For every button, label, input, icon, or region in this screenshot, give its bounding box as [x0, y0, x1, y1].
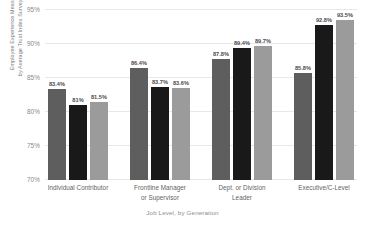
bar-item[interactable]: 83.7% — [151, 10, 169, 180]
y-axis-title-line1: Employee Experience Measured — [9, 0, 15, 70]
bar-group: 86.4%83.7%83.6% — [127, 10, 193, 180]
bar-value-label: 81% — [72, 97, 83, 103]
bar-value-label: 85.8% — [295, 65, 311, 71]
bar-value-label: 93.5% — [337, 12, 353, 18]
bar-item[interactable]: 83.6% — [172, 10, 190, 180]
x-axis-tick-labels: Individual ContributorFrontline Managero… — [45, 183, 357, 202]
bar[interactable] — [69, 105, 87, 180]
bar-value-label: 89.4% — [234, 40, 250, 46]
bar-group: 83.4%81%81.5% — [45, 10, 111, 180]
y-axis-tick-label: 90% — [27, 40, 40, 47]
bar[interactable] — [172, 88, 190, 180]
bar-item[interactable]: 81% — [69, 10, 87, 180]
x-axis-title: Job Level, by Generation — [0, 209, 365, 216]
x-axis-tick-label: Dept. or DivisionLeader — [209, 183, 275, 202]
y-axis-title: Employee Experience Measured by Average … — [9, 0, 24, 105]
y-axis-tick-label: 75% — [27, 142, 40, 149]
y-axis-tick-label: 85% — [27, 74, 40, 81]
bar-item[interactable]: 89.7% — [254, 10, 272, 180]
bar-group: 85.8%92.8%93.5% — [291, 10, 357, 180]
bar-value-label: 86.4% — [131, 60, 147, 66]
x-axis-tick-label-line1: Frontline Manager — [134, 184, 186, 191]
bar[interactable] — [315, 25, 333, 180]
bar-chart: Employee Experience Measured by Average … — [0, 0, 365, 229]
bar-value-label: 83.6% — [173, 80, 189, 86]
y-axis-tick-label: 95% — [27, 6, 40, 13]
bar-item[interactable]: 92.8% — [315, 10, 333, 180]
x-axis-tick-label-line1: Individual Contributor — [48, 184, 109, 191]
bar-item[interactable]: 87.8% — [212, 10, 230, 180]
bar[interactable] — [254, 46, 272, 180]
x-axis-tick-label: Individual Contributor — [45, 183, 111, 202]
x-axis-tick-label-line1: Executive/C-Level — [298, 184, 350, 191]
x-axis-tick-label: Executive/C-Level — [291, 183, 357, 202]
bar[interactable] — [90, 102, 108, 180]
y-axis-tick-label: 70% — [27, 176, 40, 183]
bar-item[interactable]: 83.4% — [48, 10, 66, 180]
bar-item[interactable]: 86.4% — [130, 10, 148, 180]
bar-value-label: 89.7% — [255, 38, 271, 44]
bar[interactable] — [151, 87, 169, 180]
bar[interactable] — [212, 59, 230, 180]
y-axis-tick-label: 80% — [27, 108, 40, 115]
plot-area: 70%75%80%85%90%95% 83.4%81%81.5%86.4%83.… — [45, 10, 357, 180]
bar-item[interactable]: 89.4% — [233, 10, 251, 180]
x-axis-tick-label-line1: Dept. or Division — [218, 184, 265, 191]
bar-value-label: 87.8% — [213, 51, 229, 57]
bar-value-label: 83.7% — [152, 79, 168, 85]
bar[interactable] — [233, 48, 251, 180]
bar[interactable] — [130, 68, 148, 180]
bar-value-label: 92.8% — [316, 17, 332, 23]
bar-item[interactable]: 93.5% — [336, 10, 354, 180]
bar-group: 87.8%89.4%89.7% — [209, 10, 275, 180]
bar[interactable] — [48, 89, 66, 180]
bar-item[interactable]: 85.8% — [294, 10, 312, 180]
bar[interactable] — [294, 73, 312, 180]
bar-value-label: 81.5% — [91, 94, 107, 100]
bar-groups: 83.4%81%81.5%86.4%83.7%83.6%87.8%89.4%89… — [45, 10, 357, 180]
x-axis-tick-label-line2: or Supervisor — [127, 193, 193, 203]
bar[interactable] — [336, 20, 354, 180]
y-axis-title-line2: by Average Trust Index Survey Score — [17, 0, 25, 105]
bar-item[interactable]: 81.5% — [90, 10, 108, 180]
bar-value-label: 83.4% — [49, 81, 65, 87]
x-axis-tick-label: Frontline Manageror Supervisor — [127, 183, 193, 202]
x-axis-tick-label-line2: Leader — [209, 193, 275, 203]
